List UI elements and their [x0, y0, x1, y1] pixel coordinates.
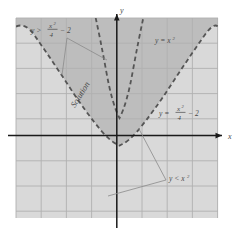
outer-inequality-lhs: y > — [30, 26, 41, 35]
inner-inequality-lhs: y < x — [168, 174, 185, 183]
outer-curve-lhs: y = — [158, 109, 169, 118]
graph-canvas: x y y > x 2 4 − 2 y = x 2 y = x 2 4 − 2 … — [0, 0, 239, 238]
outer-inequality-denominator: 4 — [50, 31, 54, 39]
x-axis-label: x — [227, 132, 232, 141]
quadratic-inequality-figure: x y y > x 2 4 − 2 y = x 2 y = x 2 4 − 2 … — [0, 0, 239, 238]
outer-inequality-tail: − 2 — [60, 26, 71, 35]
y-axis-label: y — [119, 6, 124, 15]
outer-curve-denominator: 4 — [178, 114, 182, 122]
outer-curve-tail: − 2 — [188, 109, 199, 118]
inner-curve-lhs: y = x — [154, 36, 171, 45]
x-axis-arrow — [216, 133, 223, 139]
y-axis-arrow — [114, 14, 120, 21]
